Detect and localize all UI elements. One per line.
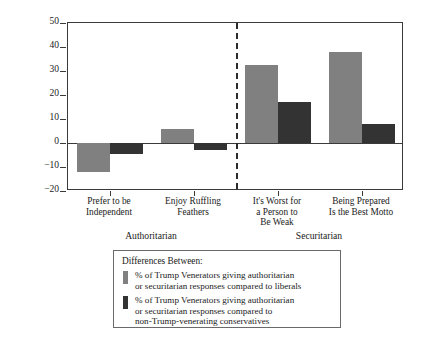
bar <box>161 129 194 143</box>
y-axis-tick <box>60 119 66 120</box>
y-axis-tick-label: 30 <box>19 65 59 75</box>
y-axis-tick <box>60 95 66 96</box>
y-axis-tick <box>60 143 66 144</box>
y-axis-title-line-1: % of Trump Venerators Agreeing <box>0 0 8 18</box>
x-axis-category-label-line: Being Prepared <box>313 196 409 207</box>
bar <box>77 143 110 172</box>
y-axis-title-line-2: Relative to Other Groups <box>8 0 20 18</box>
y-axis-tick-label: 20 <box>19 89 59 99</box>
y-axis-tick <box>60 71 66 72</box>
x-axis-group-label: Authoritarian <box>61 230 241 241</box>
y-axis-tick <box>60 47 66 48</box>
legend-label-liberals: % of Trump Venerators giving authoritari… <box>135 270 333 291</box>
group-divider <box>236 23 238 189</box>
x-axis-category-label-line: Independent <box>61 207 157 218</box>
bar <box>245 65 278 143</box>
x-axis-category-label-line: It's Worst for <box>229 196 325 207</box>
plot-area <box>67 22 403 190</box>
chart-legend: Differences Between: % of Trump Venerato… <box>113 250 341 328</box>
x-axis-category-label-line: Enjoy Ruffling <box>145 196 241 207</box>
x-axis-category-label-line: Prefer to be <box>61 196 157 207</box>
legend-swatch-dark <box>123 296 128 309</box>
y-axis-tick <box>60 167 66 168</box>
y-axis-tick-label: −10 <box>19 161 59 171</box>
y-axis-tick <box>60 23 66 24</box>
chart-figure: % of Trump Venerators Agreeing Relative … <box>0 0 428 346</box>
x-axis-category-label-line: Be Weak <box>229 217 325 228</box>
x-axis-category-label: Being PreparedIs the Best Motto <box>313 196 409 217</box>
bar <box>278 102 311 143</box>
legend-label-liberals-line-1: % of Trump Venerators giving authoritari… <box>135 270 333 281</box>
bar <box>362 124 395 143</box>
bar <box>110 143 143 154</box>
bar <box>329 52 362 143</box>
bar <box>194 143 227 150</box>
x-axis-category-label: Prefer to beIndependent <box>61 196 157 217</box>
x-axis-category-label-line: Feathers <box>145 207 241 218</box>
legend-title: Differences Between: <box>122 256 333 267</box>
x-axis-category-label-line: Is the Best Motto <box>313 207 409 218</box>
legend-item-conservatives: % of Trump Venerators giving authoritari… <box>122 295 333 327</box>
legend-label-conservatives-line-2: or securitarian responses compared to <box>135 306 333 317</box>
legend-swatch-light <box>123 271 128 284</box>
legend-label-liberals-line-2: or securitarian responses compared to li… <box>135 281 333 292</box>
y-axis-title: % of Trump Venerators Agreeing Relative … <box>0 0 19 18</box>
legend-item-liberals: % of Trump Venerators giving authoritari… <box>122 270 333 291</box>
y-axis-tick-label: 50 <box>19 17 59 27</box>
legend-label-conservatives: % of Trump Venerators giving authoritari… <box>135 295 333 327</box>
x-axis-group-label: Securitarian <box>229 230 409 241</box>
x-axis-category-label: It's Worst fora Person toBe Weak <box>229 196 325 228</box>
x-axis-category-label-line: a Person to <box>229 207 325 218</box>
y-axis-tick-label: −20 <box>19 185 59 195</box>
legend-label-conservatives-line-1: % of Trump Venerators giving authoritari… <box>135 295 333 306</box>
y-axis-tick <box>60 191 66 192</box>
x-axis-category-label: Enjoy RufflingFeathers <box>145 196 241 217</box>
y-axis-tick-label: 40 <box>19 41 59 51</box>
legend-label-conservatives-line-3: non-Trump-venerating conservatives <box>135 316 333 327</box>
y-axis-tick-label: 10 <box>19 113 59 123</box>
y-axis-tick-label: 0 <box>19 137 59 147</box>
